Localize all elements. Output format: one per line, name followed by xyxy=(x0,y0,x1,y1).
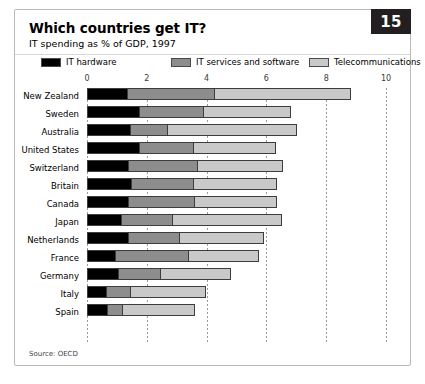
bar-segment xyxy=(127,89,214,99)
bar-segment xyxy=(128,197,194,207)
bar-segment xyxy=(115,251,188,261)
country-label: Britain xyxy=(13,178,85,193)
source-note: Source: OECD xyxy=(29,350,78,358)
chart-row: Japan xyxy=(15,214,410,232)
x-axis-tick-label: 2 xyxy=(144,74,149,83)
bar-segment xyxy=(188,251,258,261)
legend-item-it-hardware: IT hardware xyxy=(41,57,116,67)
country-label: Japan xyxy=(13,214,85,229)
bar-segment xyxy=(88,233,128,243)
chart-row: Spain xyxy=(15,304,410,322)
bar-rows: New ZealandSwedenAustraliaUnited StatesS… xyxy=(15,88,410,322)
bar-segment xyxy=(179,233,263,243)
legend-label: IT hardware xyxy=(66,57,116,67)
chart-row: France xyxy=(15,250,410,268)
legend-swatch-icon xyxy=(171,58,191,67)
bar-segment xyxy=(193,179,277,189)
chart-row: Switzerland xyxy=(15,160,410,178)
country-label: New Zealand xyxy=(13,88,85,103)
stacked-bar xyxy=(87,88,351,100)
bar-segment xyxy=(88,269,118,279)
stacked-bar xyxy=(87,142,276,154)
legend-item-telecommunications: Telecommunications xyxy=(309,57,421,67)
bar-segment xyxy=(88,107,139,117)
bar-segment xyxy=(106,287,130,297)
stacked-bar xyxy=(87,106,291,118)
stacked-bar xyxy=(87,124,297,136)
bar-segment xyxy=(193,143,275,153)
bar-segment xyxy=(88,89,127,99)
stacked-bar xyxy=(87,178,277,190)
bar-segment xyxy=(130,287,205,297)
bar-segment xyxy=(172,215,281,225)
country-label: Switzerland xyxy=(13,160,85,175)
chart-row: Canada xyxy=(15,196,410,214)
x-axis-tick-label: 10 xyxy=(381,74,391,83)
stacked-bar xyxy=(87,304,195,316)
bar-segment xyxy=(88,143,139,153)
figure-number-badge: 15 xyxy=(371,9,411,34)
legend-item-it-services-and-software: IT services and software xyxy=(171,57,299,67)
bar-segment xyxy=(88,287,106,297)
chart-title: Which countries get IT? xyxy=(29,20,206,36)
bar-segment xyxy=(194,197,276,207)
stacked-bar xyxy=(87,196,277,208)
stacked-bar xyxy=(87,160,283,172)
stacked-bar xyxy=(87,214,282,226)
x-axis-tick-label: 6 xyxy=(264,74,269,83)
chart-row: Netherlands xyxy=(15,232,410,250)
x-axis-tick-label: 4 xyxy=(204,74,209,83)
bar-segment xyxy=(197,161,282,171)
header-divider xyxy=(15,54,410,55)
bar-segment xyxy=(88,251,115,261)
x-axis-tick-label: 0 xyxy=(84,74,89,83)
stacked-bar xyxy=(87,268,231,280)
chart-figure: 15 Which countries get IT? IT spending a… xyxy=(14,9,411,366)
legend-swatch-icon xyxy=(41,58,61,67)
bar-segment xyxy=(88,197,128,207)
bar-segment xyxy=(203,107,290,117)
country-label: Australia xyxy=(13,124,85,139)
country-label: Netherlands xyxy=(13,232,85,247)
bar-segment xyxy=(118,269,160,279)
stacked-bar xyxy=(87,232,264,244)
bar-segment xyxy=(167,125,296,135)
country-label: Spain xyxy=(13,304,85,319)
bar-segment xyxy=(128,233,179,243)
chart-row: Australia xyxy=(15,124,410,142)
bar-segment xyxy=(160,269,230,279)
legend-swatch-icon xyxy=(309,58,329,67)
bar-segment xyxy=(88,215,121,225)
country-label: France xyxy=(13,250,85,265)
legend-label: IT services and software xyxy=(196,57,299,67)
bar-segment xyxy=(130,125,167,135)
country-label: Italy xyxy=(13,286,85,301)
chart-row: Italy xyxy=(15,286,410,304)
stacked-bar xyxy=(87,250,259,262)
chart-row: Germany xyxy=(15,268,410,286)
bar-segment xyxy=(88,161,128,171)
x-axis-tick-labels: 0246810 xyxy=(15,74,410,86)
chart-row: Sweden xyxy=(15,106,410,124)
country-label: Sweden xyxy=(13,106,85,121)
bar-segment xyxy=(122,305,194,315)
country-label: Germany xyxy=(13,268,85,283)
plot-area: 0246810 New ZealandSwedenAustraliaUnited… xyxy=(15,74,410,365)
bar-segment xyxy=(121,215,172,225)
legend-label: Telecommunications xyxy=(334,57,421,67)
x-axis-tick-label: 8 xyxy=(324,74,329,83)
bar-segment xyxy=(128,161,197,171)
bar-segment xyxy=(139,143,193,153)
bar-segment xyxy=(107,305,122,315)
bar-segment xyxy=(139,107,203,117)
stacked-bar xyxy=(87,286,206,298)
chart-row: Britain xyxy=(15,178,410,196)
country-label: Canada xyxy=(13,196,85,211)
bar-segment xyxy=(88,305,107,315)
bar-segment xyxy=(214,89,350,99)
chart-row: New Zealand xyxy=(15,88,410,106)
bar-segment xyxy=(88,125,130,135)
bar-segment xyxy=(131,179,192,189)
chart-subtitle: IT spending as % of GDP, 1997 xyxy=(29,38,176,49)
chart-row: United States xyxy=(15,142,410,160)
